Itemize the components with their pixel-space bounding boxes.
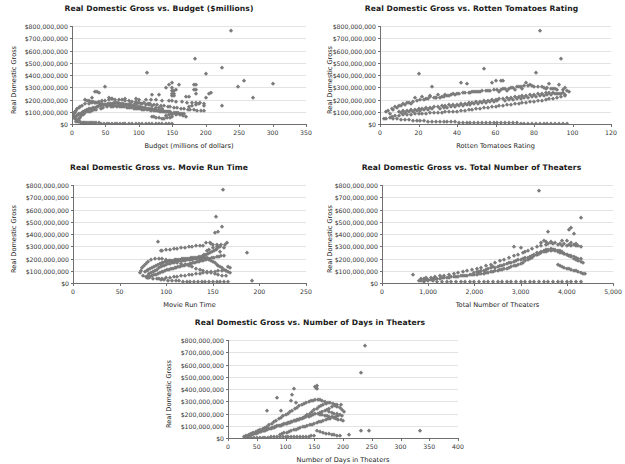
y-tick-label: $800,000,000 (335, 182, 378, 189)
gridline (380, 38, 611, 39)
x-tick-label: 50 (253, 443, 261, 450)
data-point (464, 82, 469, 87)
y-tick-mark (71, 210, 74, 211)
gridline (228, 401, 458, 402)
x-tick-mark (496, 124, 497, 127)
y-tick-mark (71, 271, 74, 272)
x-tick-label: 250 (300, 288, 312, 295)
data-point (537, 28, 542, 33)
x-tick-mark (382, 283, 383, 286)
x-tick-mark (213, 283, 214, 286)
y-tick-mark (226, 340, 229, 341)
x-tick-mark (72, 124, 73, 127)
data-point (229, 28, 234, 33)
y-tick-mark (226, 414, 229, 415)
gridline (73, 234, 306, 235)
plot-area (72, 26, 306, 124)
y-tick-label: $200,000,000 (181, 410, 224, 417)
gridline (73, 210, 306, 211)
y-tick-label: $200,000,000 (25, 96, 68, 103)
y-tick-label: $200,000,000 (335, 255, 378, 262)
x-tick-label: 0 (71, 288, 75, 295)
data-point (534, 245, 539, 250)
y-tick-mark (226, 401, 229, 402)
x-tick-mark (419, 124, 420, 127)
y-tick-mark (380, 185, 383, 186)
data-point (220, 103, 225, 108)
data-point (200, 244, 205, 249)
x-tick-label: 100 (160, 288, 172, 295)
y-tick-label: $500,000,000 (181, 373, 224, 380)
x-tick-mark (206, 124, 207, 127)
x-tick-label: 150 (166, 129, 178, 136)
gridline (380, 75, 611, 76)
x-tick-mark (257, 438, 258, 441)
data-point (221, 187, 226, 192)
x-axis-title: Number of Days in Theaters (228, 456, 458, 464)
y-axis-title: Real Domestic Gross (326, 46, 334, 114)
x-tick-label: 40 (453, 129, 461, 136)
x-tick-label: 2,000 (466, 288, 484, 295)
y-tick-mark (71, 185, 74, 186)
data-point (220, 65, 225, 70)
x-axis-title: Budget (millions of dollars) (72, 142, 306, 150)
y-tick-label: $300,000,000 (335, 243, 378, 250)
x-tick-mark (613, 283, 614, 286)
y-tick-label: $500,000,000 (333, 59, 376, 66)
y-tick-mark (71, 259, 74, 260)
y-tick-mark (226, 365, 229, 366)
x-tick-label: 5,000 (604, 288, 622, 295)
y-tick-label: $800,000,000 (25, 23, 68, 30)
data-point (489, 81, 494, 86)
x-tick-mark (372, 438, 373, 441)
gridline (72, 38, 306, 39)
y-tick-label: $300,000,000 (26, 243, 69, 250)
x-tick-mark (521, 283, 522, 286)
data-point (103, 85, 108, 90)
y-tick-mark (71, 197, 74, 198)
chart-title: Real Domestic Gross vs. Rotten Tomatoes … (318, 4, 625, 13)
x-tick-label: 100 (133, 129, 145, 136)
y-tick-label: $500,000,000 (335, 218, 378, 225)
gridline (380, 63, 611, 64)
x-tick-mark (306, 124, 307, 127)
y-tick-label: $800,000,000 (333, 23, 376, 30)
data-point (571, 232, 576, 237)
x-tick-mark (429, 438, 430, 441)
x-axis-title: Movie Run Time (73, 301, 306, 309)
x-tick-mark (286, 438, 287, 441)
x-tick-label: 350 (300, 129, 312, 136)
data-point (411, 273, 416, 278)
x-tick-label: 200 (337, 443, 349, 450)
y-tick-mark (226, 426, 229, 427)
x-tick-label: 4,000 (558, 288, 576, 295)
x-tick-label: 300 (267, 129, 279, 136)
y-tick-mark (380, 210, 383, 211)
x-tick-label: 100 (567, 129, 579, 136)
y-tick-label: $600,000,000 (333, 47, 376, 54)
gridline (380, 26, 611, 27)
plot-area (380, 26, 611, 124)
plot-wrap: $0$100,000,000$200,000,000$300,000,000$4… (380, 26, 611, 124)
x-axis-line (382, 283, 614, 284)
gridline (228, 365, 458, 366)
x-tick-mark (166, 283, 167, 286)
y-tick-label: $200,000,000 (333, 96, 376, 103)
y-tick-label: $700,000,000 (335, 194, 378, 201)
x-tick-label: 1,000 (419, 288, 437, 295)
gridline (382, 222, 613, 223)
data-point (559, 57, 564, 62)
data-point (291, 387, 296, 392)
gridline (73, 222, 306, 223)
y-tick-label: $600,000,000 (181, 361, 224, 368)
y-tick-mark (378, 75, 381, 76)
data-point (557, 82, 562, 87)
y-tick-mark (226, 352, 229, 353)
chart-panel-days-in-theaters: Real Domestic Gross vs. Number of Days i… (155, 318, 465, 457)
x-tick-mark (314, 438, 315, 441)
chart-panel-theaters: Real Domestic Gross vs. Total Number of … (318, 163, 625, 313)
chart-title: Real Domestic Gross vs. Total Number of … (318, 163, 625, 172)
y-tick-label: $400,000,000 (26, 231, 69, 238)
gridline (228, 352, 458, 353)
gridline (382, 185, 613, 186)
